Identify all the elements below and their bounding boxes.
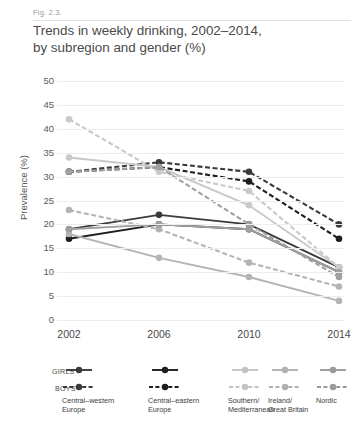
gridline: [57, 177, 345, 178]
gridline: [57, 296, 345, 297]
legend-entry-label-line-1: Nordic: [316, 396, 357, 405]
legend-swatch-girls: [62, 363, 96, 377]
page-title-line-2: by subregion and gender (%): [33, 40, 343, 57]
legend-swatch-boys: [316, 380, 350, 394]
legend-swatch-boys: [62, 380, 96, 394]
x-axis-tick-label: 2010: [237, 328, 260, 340]
header-divider: [33, 20, 351, 21]
legend-entry-label-line-1: Central–western: [62, 396, 142, 405]
y-axis-tick-label: 5: [28, 290, 54, 301]
y-axis-tick-label: 20: [28, 218, 54, 229]
y-axis-tick-label: 50: [28, 75, 54, 86]
legend-entry-label-line-2: Europe: [148, 405, 228, 414]
legend-entry-label-line-2: Great Britain: [268, 405, 348, 414]
legend-entry-label-line-2: Europe: [62, 405, 142, 414]
legend-entry-label: Central–westernEurope: [62, 396, 142, 415]
legend-entry-label: Nordic: [316, 396, 357, 405]
series-data-point: [246, 259, 253, 266]
y-axis-tick-label: 35: [28, 147, 54, 158]
y-axis-tick-label: 10: [28, 266, 54, 277]
series-data-point: [66, 226, 73, 233]
chart-legend: GIRLS BOYS Central–westernEuropeCentral–…: [0, 352, 357, 421]
y-axis-tick-label: 25: [28, 195, 54, 206]
legend-swatch-girls: [316, 363, 350, 377]
legend-swatch-boys: [228, 380, 262, 394]
gridline: [57, 248, 345, 249]
series-data-point: [66, 154, 73, 161]
legend-swatch-girls: [148, 363, 182, 377]
series-data-point: [156, 212, 163, 219]
series-data-point: [156, 164, 163, 171]
gridline: [57, 81, 345, 82]
chart-series: [66, 164, 343, 242]
legend-entry-label-line-1: Central–eastern: [148, 396, 228, 405]
x-axis-tick-label: 2014: [327, 328, 350, 340]
series-line: [69, 167, 339, 239]
gridline: [57, 201, 345, 202]
series-line: [69, 162, 339, 224]
series-data-point: [246, 169, 253, 176]
y-axis-tick-label: 15: [28, 242, 54, 253]
chart-plot-wrapper: Prevalence (%) 05101520253035404550 2002…: [0, 70, 357, 330]
gridline: [57, 153, 345, 154]
x-axis-tick-label: 2006: [147, 328, 170, 340]
y-axis-tick-label: 40: [28, 123, 54, 134]
series-data-point: [246, 178, 253, 185]
page-title: Trends in weekly drinking, 2002–2014, by…: [33, 23, 343, 56]
series-data-point: [66, 207, 73, 214]
y-axis-tick-label: 45: [28, 99, 54, 110]
series-data-point: [156, 255, 163, 262]
gridline: [57, 224, 345, 225]
page-title-line-1: Trends in weekly drinking, 2002–2014,: [33, 23, 343, 40]
series-data-point: [336, 235, 343, 242]
figure-caption: Fig. 2.3.: [33, 8, 62, 17]
series-data-point: [66, 169, 73, 176]
legend-entry-label: Central–easternEurope: [148, 396, 228, 415]
series-line: [69, 215, 339, 268]
series-data-point: [336, 298, 343, 305]
legend-swatch-girls: [228, 363, 262, 377]
gridline: [57, 129, 345, 130]
series-data-point: [246, 188, 253, 195]
x-axis-tick-labels: 2002200620102014: [57, 328, 345, 346]
gridline: [57, 320, 345, 321]
legend-swatch-boys: [148, 380, 182, 394]
y-axis-tick-labels: 05101520253035404550: [22, 81, 54, 320]
x-axis-tick-label: 2002: [57, 328, 80, 340]
legend-swatch-boys: [268, 380, 302, 394]
legend-swatch-girls: [268, 363, 302, 377]
y-axis-tick-label: 30: [28, 171, 54, 182]
series-data-point: [246, 202, 253, 209]
series-data-point: [336, 283, 343, 290]
chart-series: [66, 164, 343, 281]
series-data-point: [66, 116, 73, 123]
series-data-point: [246, 274, 253, 281]
plot-area: [57, 81, 345, 320]
gridline: [57, 105, 345, 106]
series-line: [69, 234, 339, 301]
series-data-point: [336, 274, 343, 281]
gridline: [57, 272, 345, 273]
y-axis-tick-label: 0: [28, 314, 54, 325]
